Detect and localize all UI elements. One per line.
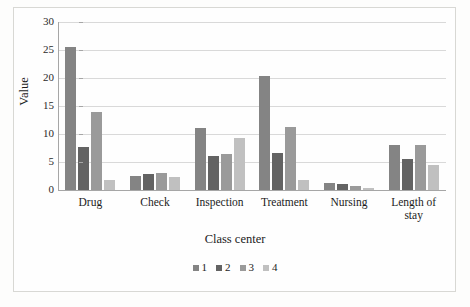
legend-item: 1 bbox=[193, 262, 208, 273]
x-axis-label: Length ofstay bbox=[381, 196, 446, 222]
x-axis-title: Class center bbox=[0, 232, 470, 247]
bar bbox=[402, 159, 413, 190]
x-axis-label-line: stay bbox=[381, 209, 446, 222]
y-tick-mark-0 bbox=[79, 190, 83, 191]
bar-group bbox=[123, 22, 188, 190]
bar bbox=[156, 173, 167, 190]
bar bbox=[428, 165, 439, 190]
legend-label: 1 bbox=[202, 262, 208, 273]
x-axis-label-line: Nursing bbox=[317, 196, 382, 209]
legend-label: 2 bbox=[225, 262, 231, 273]
bar bbox=[285, 127, 296, 190]
legend-swatch-icon bbox=[263, 265, 269, 271]
x-axis-label: Treatment bbox=[252, 196, 317, 209]
y-tick-label-15: 15 bbox=[28, 100, 54, 111]
bar bbox=[272, 153, 283, 190]
legend-label: 4 bbox=[272, 262, 278, 273]
bar bbox=[195, 128, 206, 190]
bar bbox=[78, 147, 89, 190]
legend-swatch-icon bbox=[216, 265, 222, 271]
bar bbox=[298, 180, 309, 190]
y-tick-label-30: 30 bbox=[28, 16, 54, 27]
x-axis-label-line: Inspection bbox=[187, 196, 252, 209]
plot-area bbox=[58, 22, 446, 190]
legend-item: 2 bbox=[216, 262, 231, 273]
bar bbox=[169, 177, 180, 190]
y-tick-mark-10 bbox=[79, 134, 83, 135]
legend-item: 3 bbox=[240, 262, 255, 273]
y-tick-mark-5 bbox=[79, 162, 83, 163]
bar bbox=[143, 174, 154, 190]
y-tick-label-10: 10 bbox=[28, 128, 54, 139]
bar bbox=[389, 145, 400, 190]
bar bbox=[234, 138, 245, 190]
y-tick-mark-20 bbox=[79, 78, 83, 79]
x-axis-label: Drug bbox=[58, 196, 123, 209]
bar bbox=[259, 76, 270, 190]
bar bbox=[415, 145, 426, 190]
y-tick-label-25: 25 bbox=[28, 44, 54, 55]
y-tick-mark-30 bbox=[79, 22, 83, 23]
bar-group bbox=[58, 22, 123, 190]
x-axis-label: Check bbox=[123, 196, 188, 209]
legend-swatch-icon bbox=[240, 265, 246, 271]
legend-item: 4 bbox=[263, 262, 278, 273]
legend-label: 3 bbox=[249, 262, 255, 273]
bar bbox=[324, 183, 335, 190]
bar-group bbox=[381, 22, 446, 190]
chart-legend: 1234 bbox=[0, 262, 470, 273]
bar bbox=[208, 156, 219, 190]
chart-figure: 051015202530 Value DrugCheckInspectionTr… bbox=[0, 0, 470, 307]
bar-group bbox=[252, 22, 317, 190]
x-axis-label: Nursing bbox=[317, 196, 382, 209]
y-axis-title: Value bbox=[17, 57, 32, 127]
bar bbox=[91, 112, 102, 190]
x-axis-line bbox=[58, 190, 446, 191]
y-tick-label-20: 20 bbox=[28, 72, 54, 83]
bar-group bbox=[317, 22, 382, 190]
y-tick-label-5: 5 bbox=[28, 156, 54, 167]
y-axis-line bbox=[58, 22, 59, 191]
x-axis-label-line: Drug bbox=[58, 196, 123, 209]
bar bbox=[104, 180, 115, 190]
x-axis-label-line: Length of bbox=[381, 196, 446, 209]
x-axis-label: Inspection bbox=[187, 196, 252, 209]
y-tick-mark-25 bbox=[79, 50, 83, 51]
y-tick-label-0: 0 bbox=[28, 184, 54, 195]
bar bbox=[65, 47, 76, 190]
y-tick-mark-15 bbox=[79, 106, 83, 107]
bar bbox=[130, 176, 141, 190]
legend-swatch-icon bbox=[193, 265, 199, 271]
x-axis-label-line: Treatment bbox=[252, 196, 317, 209]
bar-group bbox=[187, 22, 252, 190]
bar bbox=[221, 154, 232, 190]
x-axis-label-line: Check bbox=[123, 196, 188, 209]
